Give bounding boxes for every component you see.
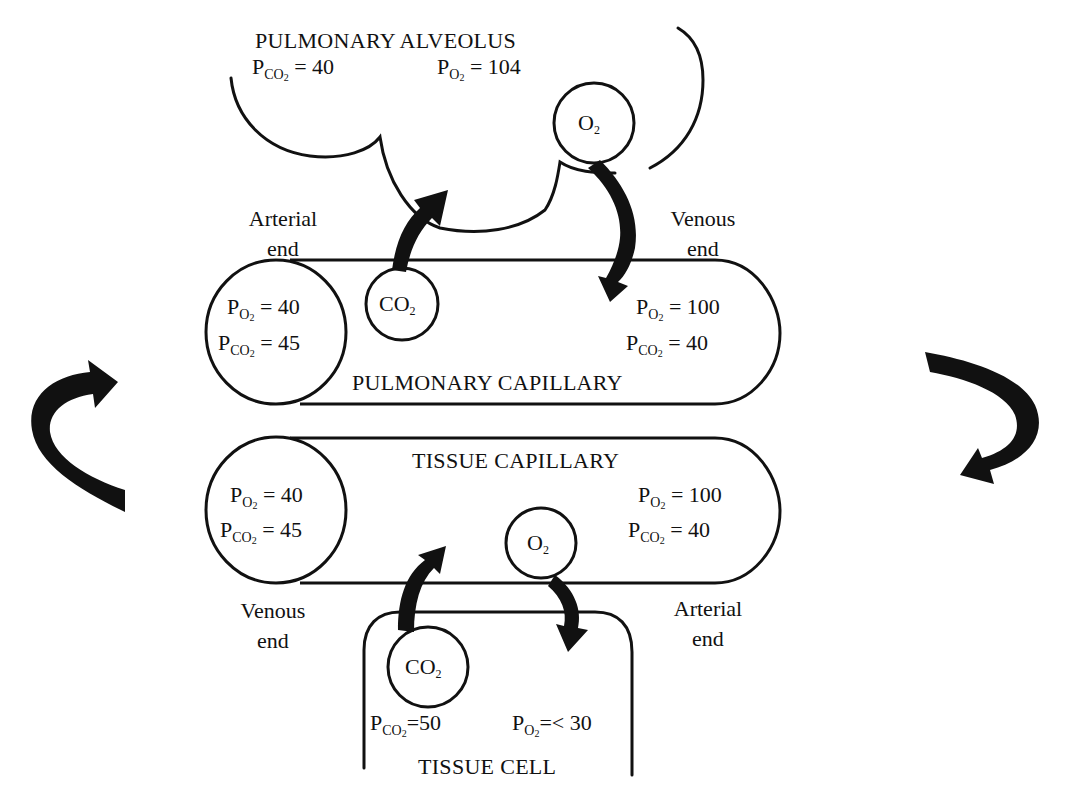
tissue-cell-title: TISSUE CELL — [418, 756, 556, 778]
pulmonary-arterial-end-label: Arterial end — [238, 204, 328, 263]
tissue-right-po2: PO2 = 100 — [638, 484, 722, 511]
pulmonary-left-pco2: PCO2 = 45 — [218, 332, 300, 359]
pulmonary-left-po2: PO2 = 40 — [227, 296, 300, 323]
pulmonary-venous-end-label: Venous end — [658, 204, 748, 263]
alveolus-title: PULMONARY ALVEOLUS — [255, 30, 516, 52]
alveolus-po2: PO2 = 104 — [437, 56, 521, 83]
pulmonary-capillary-title: PULMONARY CAPILLARY — [352, 372, 623, 394]
tissue-arterial-end-label: Arterial end — [658, 594, 758, 653]
diagram-artwork — [0, 0, 1073, 800]
alveolus-o2-label: O2 — [578, 112, 600, 136]
left-circulation-arrow — [31, 360, 125, 512]
tissue-left-pco2: PCO2 = 45 — [220, 519, 302, 546]
pulmonary-right-po2: PO2 = 100 — [636, 296, 720, 323]
co2-to-capillary-arrow — [398, 546, 446, 632]
tissue-o2-label: O2 — [527, 532, 549, 556]
cell-co2-label: CO2 — [405, 656, 442, 680]
pulmonary-co2-label: CO2 — [379, 293, 416, 317]
cell-pco2: PCO2=50 — [370, 712, 441, 739]
o2-to-capillary-arrow — [588, 160, 636, 302]
tissue-venous-end-label: Venous end — [228, 596, 318, 655]
tissue-right-pco2: PCO2 = 40 — [628, 519, 710, 546]
right-circulation-arrow — [925, 352, 1039, 484]
tissue-capillary-title: TISSUE CAPILLARY — [412, 450, 619, 472]
tissue-left-po2: PO2 = 40 — [230, 484, 303, 511]
alveolus-pco2: PCO2 = 40 — [252, 56, 334, 83]
pulmonary-right-pco2: PCO2 = 40 — [626, 332, 708, 359]
cell-po2: PO2=< 30 — [512, 712, 592, 739]
